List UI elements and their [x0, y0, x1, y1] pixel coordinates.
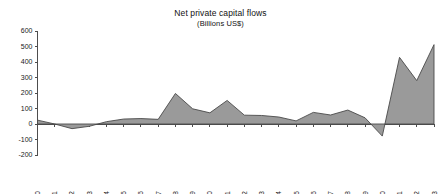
x-tick-label: 2002 — [413, 191, 420, 194]
x-tick-label: 2003 — [431, 191, 438, 194]
x-tick-label: 1995 — [293, 191, 300, 194]
x-tick-label: 1989 — [189, 191, 196, 194]
x-tick-label: 1983 — [86, 191, 93, 194]
y-tick-label: 400 — [21, 58, 33, 65]
y-tick-label: -100 — [18, 136, 32, 143]
x-tick-label: 1994 — [275, 191, 282, 194]
x-tick-label: 1996 — [310, 191, 317, 194]
x-tick-label: 2000 — [379, 191, 386, 194]
x-tick-label: 1984 — [103, 191, 110, 194]
x-tick-label: 1986 — [137, 191, 144, 194]
y-tick-label: -200 — [18, 151, 32, 158]
y-axis-tick-labels: 6005004003002001000-100-200 — [18, 27, 32, 158]
x-tick-label: 2001 — [396, 191, 403, 194]
x-tick-label: 1987 — [155, 191, 162, 194]
x-tick-label: 1980 — [34, 191, 41, 194]
y-tick-label: 200 — [21, 89, 33, 96]
x-tick-label: 1991 — [224, 191, 231, 194]
x-tick-label: 1981 — [51, 191, 58, 194]
x-tick-label: 1999 — [362, 191, 369, 194]
x-tick-label: 1997 — [327, 191, 334, 194]
y-tick-label: 500 — [21, 43, 33, 50]
x-tick-label: 1992 — [241, 191, 248, 194]
x-tick-label: 1990 — [206, 191, 213, 194]
chart-container: Net private capital flows (Billions US$)… — [0, 0, 441, 194]
y-tick-label: 100 — [21, 105, 33, 112]
series-area-net-private-capital-flows — [38, 45, 435, 136]
area-chart-plot: 6005004003002001000-100-200 198019811982… — [0, 0, 441, 194]
y-tick-label: 0 — [29, 120, 33, 127]
x-tick-label: 1993 — [258, 191, 265, 194]
y-tick-label: 600 — [21, 27, 33, 34]
y-tick-label: 300 — [21, 74, 33, 81]
x-tick-label: 1988 — [172, 191, 179, 194]
x-axis-tick-labels: 1980198119821983198419851986198719881989… — [34, 191, 438, 194]
x-tick-label: 1998 — [344, 191, 351, 194]
x-tick-label: 1982 — [68, 191, 75, 194]
x-tick-label: 1985 — [120, 191, 127, 194]
